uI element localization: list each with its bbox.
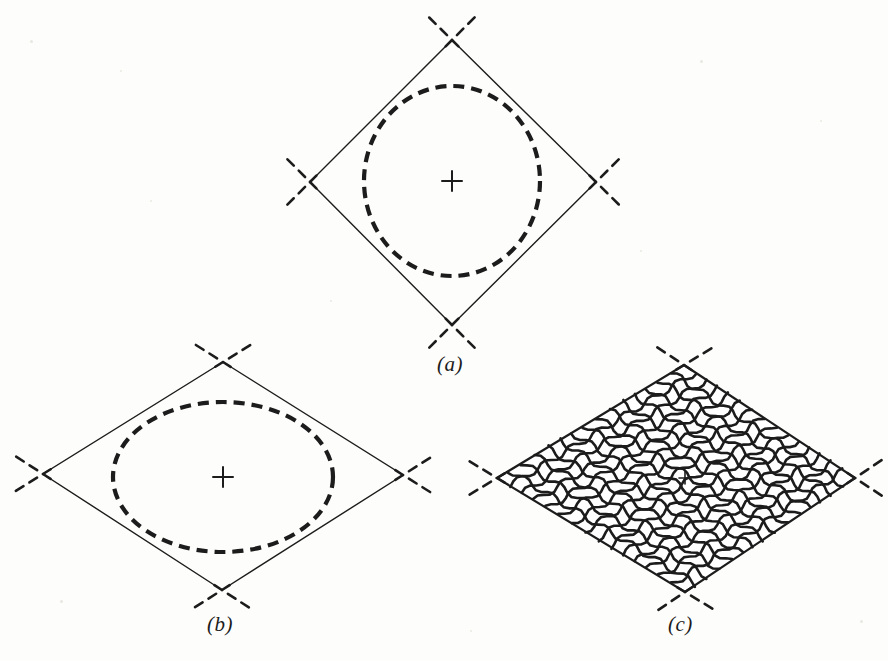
panel-label-c: (c) <box>668 612 693 637</box>
panel-c-ext-bottom-1 <box>677 587 714 609</box>
panel-a-ext-bottom-1 <box>446 319 476 350</box>
panel-b-ext-bottom-0 <box>193 585 229 608</box>
panel-a-ext-right-1 <box>590 158 621 188</box>
panel-c-ext-right-0 <box>847 473 883 497</box>
panel-c-ext-left-1 <box>468 473 505 495</box>
panel-b-ext-right-0 <box>395 470 431 493</box>
panel-label-a: (a) <box>437 352 463 377</box>
figure-root: (a) (b) (c) <box>0 0 888 661</box>
panel-b-ext-bottom-1 <box>214 585 250 608</box>
panel-a-ext-top-1 <box>428 16 459 46</box>
panel-label-b: (b) <box>207 612 233 637</box>
figure-canvas <box>0 0 888 661</box>
panel-a-ext-left-1 <box>286 176 316 206</box>
panel-a-ext-left-0 <box>286 158 316 189</box>
panel-a-ext-bottom-0 <box>428 319 459 349</box>
panel-a-ext-top-0 <box>446 16 476 46</box>
panel-c-ext-left-0 <box>468 460 505 482</box>
panel-c-ext-right-1 <box>848 459 884 483</box>
panel-c-ext-top-0 <box>676 347 713 369</box>
panel-b-ext-top-1 <box>194 344 230 367</box>
panel-b-ext-top-0 <box>215 344 252 367</box>
panel-b-ext-left-0 <box>14 456 50 479</box>
panel-b-ext-right-1 <box>395 457 431 480</box>
panel-b-center-marker <box>213 467 233 487</box>
panel-a-center-marker <box>442 171 462 191</box>
panel-c-ext-bottom-0 <box>657 587 693 611</box>
panel-c-ext-top-1 <box>656 346 692 370</box>
panel-a-ext-right-0 <box>590 176 621 206</box>
panel-b-ext-left-1 <box>14 469 51 492</box>
svg-draw-layer <box>14 16 883 611</box>
